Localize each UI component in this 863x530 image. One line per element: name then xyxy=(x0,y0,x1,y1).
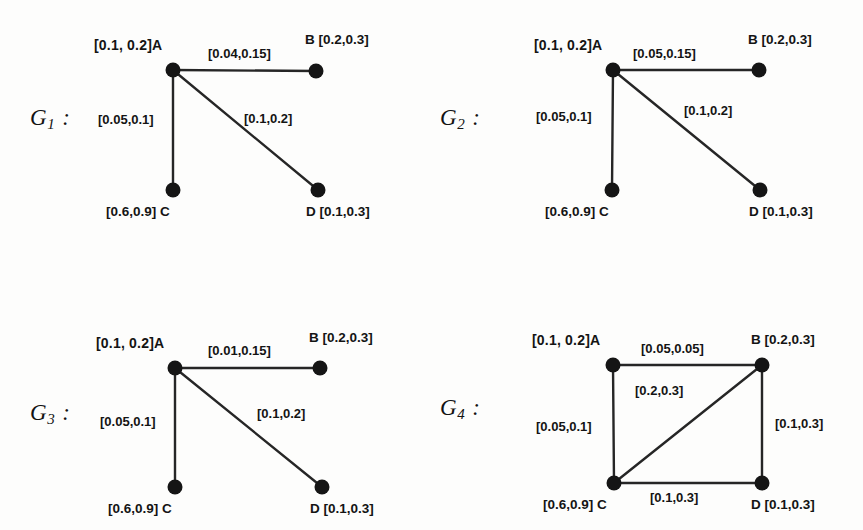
node-d xyxy=(311,183,326,198)
graph-label-base: G xyxy=(30,400,47,425)
graph-panel-g3: G3: [0.1, 0.2]A B [0.2,0.3] [0.6,0.9] C … xyxy=(0,265,431,530)
edge-label-a-c: [0.05,0.1] xyxy=(100,415,156,428)
node-b xyxy=(755,358,770,373)
edge-label-a-b: [0.05,0.05] xyxy=(641,342,704,355)
node-b xyxy=(313,361,328,376)
graph-label-base: G xyxy=(30,105,47,130)
node-a xyxy=(168,361,183,376)
graph-label-g1: G1: xyxy=(30,105,70,133)
edge-label-a-b: [0.05,0.15] xyxy=(633,47,696,60)
graph-label-subscript: 4 xyxy=(457,406,465,422)
graph-label-base: G xyxy=(440,105,457,130)
node-c xyxy=(166,183,181,198)
graph-label-g4: G4: xyxy=(440,395,480,423)
edge-a-c xyxy=(612,70,613,190)
node-a xyxy=(606,358,621,373)
vertex-label-a: [0.1, 0.2]A xyxy=(94,38,162,52)
graph-label-colon: : xyxy=(465,395,480,420)
edge-label-a-b: [0.01,0.15] xyxy=(208,344,271,357)
vertex-label-b: B [0.2,0.3] xyxy=(309,331,373,345)
graph-label-g2: G2: xyxy=(440,105,480,133)
edge-label-a-d: [0.1,0.2] xyxy=(684,104,732,117)
node-c xyxy=(607,476,622,491)
graph-label-base: G xyxy=(440,395,457,420)
node-d xyxy=(755,476,770,491)
graph-label-colon: : xyxy=(55,105,70,130)
graph-panel-g1: G1: [0.1, 0.2]A B [0.2,0.3] [0.6,0.9] C … xyxy=(0,0,431,265)
edge-label-a-b: [0.04,0.15] xyxy=(208,47,271,60)
node-c xyxy=(605,183,620,198)
edge-label-c-d: [0.1,0.3] xyxy=(650,491,698,504)
edge-label-a-d: [0.1,0.2] xyxy=(257,407,305,420)
graph-label-colon: : xyxy=(55,400,70,425)
vertex-label-c: [0.6,0.9] C xyxy=(106,205,170,219)
edge-label-a-c: [0.05,0.1] xyxy=(536,110,592,123)
vertex-label-a: [0.1, 0.2]A xyxy=(96,336,164,350)
node-d xyxy=(753,183,768,198)
vertex-label-d: D [0.1,0.3] xyxy=(310,502,374,516)
vertex-label-c: [0.6,0.9] C xyxy=(543,498,607,512)
graph-panel-g4: G4: [0.1, 0.2]A B [0.2,0.3] [0.6,0.9] C … xyxy=(432,265,863,530)
node-a xyxy=(606,63,621,78)
graph-label-subscript: 1 xyxy=(47,116,55,132)
graph-drawing-g3 xyxy=(0,265,431,530)
vertex-label-a: [0.1, 0.2]A xyxy=(534,38,602,52)
vertex-label-b: B [0.2,0.3] xyxy=(305,33,369,47)
vertex-label-c: [0.6,0.9] C xyxy=(108,502,172,516)
figure-four-interval-graphs: G1: [0.1, 0.2]A B [0.2,0.3] [0.6,0.9] C … xyxy=(0,0,863,530)
node-a xyxy=(166,63,181,78)
graph-label-subscript: 2 xyxy=(457,116,465,132)
edge-label-b-d: [0.1,0.3] xyxy=(775,417,823,430)
vertex-label-a: [0.1, 0.2]A xyxy=(532,333,600,347)
edge-a-b xyxy=(173,70,316,71)
edge-a-c xyxy=(613,365,614,483)
graph-label-subscript: 3 xyxy=(47,411,55,427)
node-d xyxy=(315,480,330,495)
edge-label-a-c: [0.05,0.1] xyxy=(536,420,592,433)
node-c xyxy=(168,480,183,495)
edge-label-a-d: [0.1,0.2] xyxy=(244,112,292,125)
graph-label-g3: G3: xyxy=(30,400,70,428)
node-b xyxy=(752,63,767,78)
vertex-label-d: D [0.1,0.3] xyxy=(749,205,813,219)
vertex-label-b: B [0.2,0.3] xyxy=(751,333,815,347)
vertex-label-c: [0.6,0.9] C xyxy=(545,205,609,219)
edge-a-d xyxy=(613,70,760,190)
edge-a-d xyxy=(173,70,318,190)
graph-label-colon: : xyxy=(465,105,480,130)
vertex-label-b: B [0.2,0.3] xyxy=(748,33,812,47)
vertex-label-d: D [0.1,0.3] xyxy=(751,498,815,512)
node-b xyxy=(309,64,324,79)
vertex-label-d: D [0.1,0.3] xyxy=(306,205,370,219)
edge-a-d xyxy=(175,368,322,487)
edge-label-c-b: [0.2,0.3] xyxy=(635,384,683,397)
edge-label-a-c: [0.05,0.1] xyxy=(98,113,154,126)
graph-panel-g2: G2: [0.1, 0.2]A B [0.2,0.3] [0.6,0.9] C … xyxy=(432,0,863,265)
